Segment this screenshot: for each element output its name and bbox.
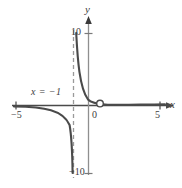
y-axis-label: y [85, 4, 90, 15]
origin-label: 0 [92, 110, 97, 120]
x-tick-label-right: 5 [155, 110, 160, 120]
curve-left-branch [14, 107, 73, 174]
graph-figure: y x x = −1 10 −10 −5 5 0 [0, 0, 182, 188]
x-axis-label: x [170, 99, 175, 110]
y-tick-label-top: 10 [71, 27, 81, 37]
asymptote-label: x = −1 [31, 87, 61, 97]
y-axis-arrow-icon [85, 16, 92, 24]
curve-right-branch [76, 33, 165, 105]
x-tick-label-left: −5 [11, 110, 22, 120]
open-circle-hole-icon [97, 100, 104, 107]
graph-canvas [0, 0, 182, 188]
y-tick-label-bottom: −10 [69, 167, 85, 177]
